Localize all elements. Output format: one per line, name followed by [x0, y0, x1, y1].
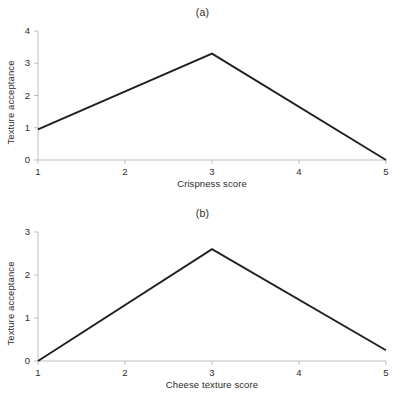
y-tick-label: 1	[14, 122, 30, 133]
y-tick-label: 2	[14, 269, 30, 280]
y-tick-label: 0	[14, 355, 30, 366]
y-tick-label: 4	[14, 25, 30, 36]
y-tick-label: 1	[14, 312, 30, 323]
figure-root: (a) Texture acceptance Crispness score 1…	[0, 0, 405, 401]
x-tick-label: 1	[28, 367, 48, 378]
x-tick-label: 3	[202, 166, 222, 177]
chart-panel-b: (b) Texture acceptance Cheese texture sc…	[0, 201, 405, 401]
y-tick-label: 3	[14, 57, 30, 68]
y-tick-label: 0	[14, 154, 30, 165]
x-tick-label: 5	[376, 166, 396, 177]
x-tick-label: 3	[202, 367, 222, 378]
x-tick-label: 2	[115, 367, 135, 378]
x-tick-label: 4	[289, 367, 309, 378]
data-line-series	[38, 249, 386, 361]
x-tick-label: 4	[289, 166, 309, 177]
data-line-series	[38, 54, 386, 160]
y-tick-label: 2	[14, 90, 30, 101]
x-tick-label: 5	[376, 367, 396, 378]
x-tick-label: 1	[28, 166, 48, 177]
x-tick-label: 2	[115, 166, 135, 177]
chart-panel-a: (a) Texture acceptance Crispness score 1…	[0, 0, 405, 200]
y-tick-label: 3	[14, 226, 30, 237]
